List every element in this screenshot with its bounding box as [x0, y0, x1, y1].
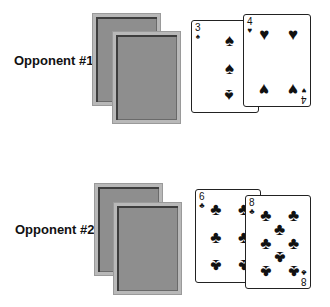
- spades-pip-icon: ♠: [225, 31, 234, 48]
- clubs-pip-icon: ♣: [260, 263, 271, 280]
- hearts-icon: ♥: [247, 26, 253, 35]
- clubs-pip-icon: ♣: [260, 235, 271, 252]
- clubs-pip-icon: ♣: [288, 206, 299, 223]
- card-rank: 6: [199, 192, 205, 201]
- hearts-pip-icon: ♥: [259, 25, 269, 42]
- hearts-pip-icon: ♥: [259, 81, 269, 98]
- clubs-pip-icon: ♣: [210, 229, 221, 246]
- opponent-1-card-4-of-hearts: 4♥4♥♥♥♥♥: [243, 14, 311, 107]
- spades-pip-icon: ♠: [225, 59, 234, 76]
- card-rank: 4: [301, 95, 307, 104]
- card-corner-index: 8♣: [301, 268, 307, 286]
- clubs-icon: ♣: [199, 201, 205, 210]
- card-rank: 3: [195, 23, 201, 32]
- clubs-pip-icon: ♣: [210, 200, 221, 217]
- clubs-icon: ♣: [249, 207, 255, 216]
- opponent-2-hidden-card-2: [114, 203, 181, 294]
- clubs-pip-icon: ♣: [210, 257, 221, 274]
- opponent-1-hidden-card-2: [113, 32, 180, 123]
- card-rank: 8: [301, 277, 307, 286]
- card-rank: 8: [249, 198, 255, 207]
- card-rank: 4: [247, 17, 253, 26]
- card-corner-index: 4♥: [247, 17, 253, 35]
- card-corner-index: 6♣: [199, 192, 205, 210]
- card-corner-index: 8♣: [249, 198, 255, 216]
- hearts-pip-icon: ♥: [288, 81, 298, 98]
- clubs-pip-icon: ♣: [274, 220, 285, 237]
- clubs-pip-icon: ♣: [288, 235, 299, 252]
- opponent-2-label: Opponent #2: [15, 222, 94, 237]
- opponent-2-card-8-of-clubs: 8♣8♣♣♣♣♣♣♣♣♣: [245, 195, 311, 289]
- card-corner-index: 3♠: [195, 23, 201, 41]
- spades-pip-icon: ♠: [225, 87, 234, 104]
- hearts-pip-icon: ♥: [288, 25, 298, 42]
- opponent-1-label: Opponent #1: [14, 53, 93, 68]
- spades-icon: ♠: [195, 32, 201, 41]
- clubs-icon: ♣: [301, 268, 307, 277]
- clubs-pip-icon: ♣: [288, 263, 299, 280]
- clubs-pip-icon: ♣: [260, 206, 271, 223]
- clubs-pip-icon: ♣: [274, 249, 285, 266]
- card-corner-index: 4♥: [301, 86, 307, 104]
